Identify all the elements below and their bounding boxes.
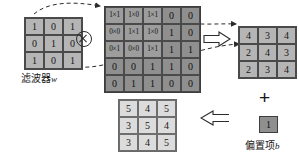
input-cell-overlay: 0×0 bbox=[124, 41, 143, 58]
input-cell: 0 bbox=[181, 24, 200, 41]
input-cell: 0 bbox=[181, 58, 200, 75]
filter-cell: 0 bbox=[25, 35, 44, 52]
result-cell: 4 bbox=[239, 27, 258, 44]
input-cell-overlay: 1×1 bbox=[143, 7, 162, 24]
convolution-operator-icon bbox=[76, 31, 92, 47]
input-cell: 1 bbox=[181, 41, 200, 58]
result-cell: 2 bbox=[239, 44, 258, 61]
input-cell-overlay: 1×1 bbox=[105, 7, 124, 24]
output-cell: 3 bbox=[119, 117, 138, 134]
filter-cell: 1 bbox=[63, 52, 82, 69]
input-cell-overlay: 0×1 bbox=[105, 41, 124, 58]
filter-cell: 1 bbox=[25, 52, 44, 69]
bias-label-text: 偏置项 bbox=[245, 140, 275, 151]
output-cell: 5 bbox=[138, 117, 157, 134]
filter-cell: 0 bbox=[44, 18, 63, 35]
input-cell: 1 bbox=[143, 58, 162, 75]
input-cell: 0 bbox=[124, 58, 143, 75]
filter-label-text: 滤波器 bbox=[21, 73, 51, 84]
input-matrix: 1×1 1×0 1×1 0 0 0×0 1×1 1×0 1 0 0×1 0×0 … bbox=[104, 6, 201, 93]
input-cell-overlay: 1×1 bbox=[143, 41, 162, 58]
result-cell: 3 bbox=[258, 27, 277, 44]
result-cell: 3 bbox=[277, 44, 296, 61]
bias-value-box: 1 bbox=[259, 116, 278, 133]
input-cell: 0 bbox=[181, 75, 200, 92]
output-cell: 3 bbox=[119, 134, 138, 151]
output-cell: 5 bbox=[119, 100, 138, 117]
input-cell: 0 bbox=[181, 7, 200, 24]
input-cell-overlay: 1×1 bbox=[124, 24, 143, 41]
input-cell: 1 bbox=[162, 58, 181, 75]
filter-cell: 1 bbox=[44, 35, 63, 52]
result-cell: 2 bbox=[239, 61, 258, 78]
output-matrix: 5 4 5 3 5 4 3 4 5 bbox=[118, 99, 177, 152]
implies-left-icon bbox=[200, 110, 230, 126]
filter-cell: 0 bbox=[44, 52, 63, 69]
filter-label-variable: w bbox=[51, 74, 57, 84]
implies-right-icon bbox=[203, 31, 231, 47]
bias-label-variable: b bbox=[275, 141, 280, 151]
input-cell-overlay: 1×0 bbox=[124, 7, 143, 24]
result-cell: 4 bbox=[277, 61, 296, 78]
filter-matrix: 1 0 1 0 1 0 1 0 1 bbox=[24, 17, 83, 70]
input-cell-overlay: 1×0 bbox=[143, 24, 162, 41]
filter-label: 滤波器w bbox=[21, 70, 57, 85]
plus-operator-icon: + bbox=[259, 88, 270, 107]
output-cell: 4 bbox=[157, 117, 176, 134]
input-cell: 0 bbox=[162, 7, 181, 24]
input-cell: 1 bbox=[162, 41, 181, 58]
input-cell: 0 bbox=[105, 75, 124, 92]
output-cell: 4 bbox=[138, 100, 157, 117]
result-matrix: 4 3 4 2 4 3 2 3 4 bbox=[238, 26, 297, 79]
input-cell: 0 bbox=[105, 58, 124, 75]
output-cell: 5 bbox=[157, 134, 176, 151]
filter-cell: 1 bbox=[25, 18, 44, 35]
convolution-diagram: 1 0 1 0 1 0 1 0 1 滤波器w 1×1 1×0 1×1 0 0 0… bbox=[0, 0, 299, 160]
result-cell: 3 bbox=[258, 61, 277, 78]
input-cell: 0 bbox=[162, 75, 181, 92]
input-cell: 1 bbox=[143, 75, 162, 92]
bias-label: 偏置项b bbox=[245, 137, 280, 152]
output-cell: 4 bbox=[138, 134, 157, 151]
result-cell: 4 bbox=[258, 44, 277, 61]
input-cell: 1 bbox=[124, 75, 143, 92]
input-cell: 1 bbox=[162, 24, 181, 41]
input-cell-overlay: 0×0 bbox=[105, 24, 124, 41]
output-cell: 5 bbox=[157, 100, 176, 117]
result-cell: 4 bbox=[277, 27, 296, 44]
